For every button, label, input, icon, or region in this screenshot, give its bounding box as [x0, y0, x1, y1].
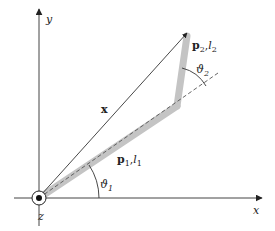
link-2-length-sub: 2 — [212, 45, 217, 54]
y-axis-label: y — [45, 13, 53, 26]
manipulator-diagram: y x z x p2,l2 p1,l1 ϑ1 ϑ2 — [0, 0, 275, 231]
z-axis-label: z — [37, 210, 44, 223]
theta-2-sub: 2 — [203, 69, 209, 78]
theta-1-sub: 1 — [108, 184, 113, 193]
theta-2-symbol: ϑ — [196, 63, 204, 76]
link-2-label: p2,l2 — [192, 39, 217, 54]
vector-x-label: x — [101, 103, 108, 116]
origin-joint-dot — [36, 195, 42, 201]
theta-1-label: ϑ1 — [100, 178, 113, 193]
theta-1-arc — [89, 165, 99, 198]
x-axis-label: x — [253, 204, 260, 217]
theta-2-label: ϑ2 — [196, 63, 209, 78]
link-1-label: p1,l1 — [117, 153, 142, 168]
theta-1-symbol: ϑ — [100, 178, 108, 191]
link-1-length-sub: 1 — [137, 159, 142, 168]
